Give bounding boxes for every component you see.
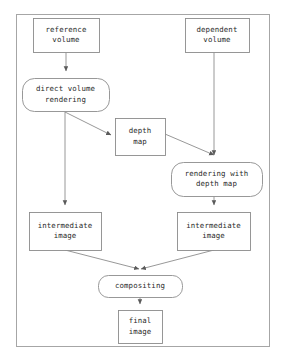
node-shape-layer (23, 19, 263, 344)
diagram-canvas: reference volume dependent volume direct… (0, 0, 282, 363)
node-compositing-shape[interactable] (99, 276, 183, 298)
diagram-svg (0, 0, 282, 363)
edge-intermediate-image-right-to-compositing (141, 250, 214, 269)
edge-direct-volume-rendering-to-depth-map (65, 112, 111, 135)
node-direct-volume-rendering-shape[interactable] (23, 79, 110, 112)
node-intermediate-image-left-shape[interactable] (30, 213, 102, 251)
node-depth-map-shape[interactable] (116, 119, 166, 156)
edge-depth-map-to-rendering-with-depth-map (165, 134, 214, 155)
node-rendering-with-depth-map-shape[interactable] (172, 163, 263, 197)
node-reference-volume-shape[interactable] (34, 19, 100, 53)
node-final-image-shape[interactable] (119, 311, 163, 344)
edge-intermediate-image-left-to-compositing (65, 250, 139, 269)
node-dependent-volume-shape[interactable] (186, 19, 250, 53)
node-intermediate-image-right-shape[interactable] (178, 213, 251, 251)
